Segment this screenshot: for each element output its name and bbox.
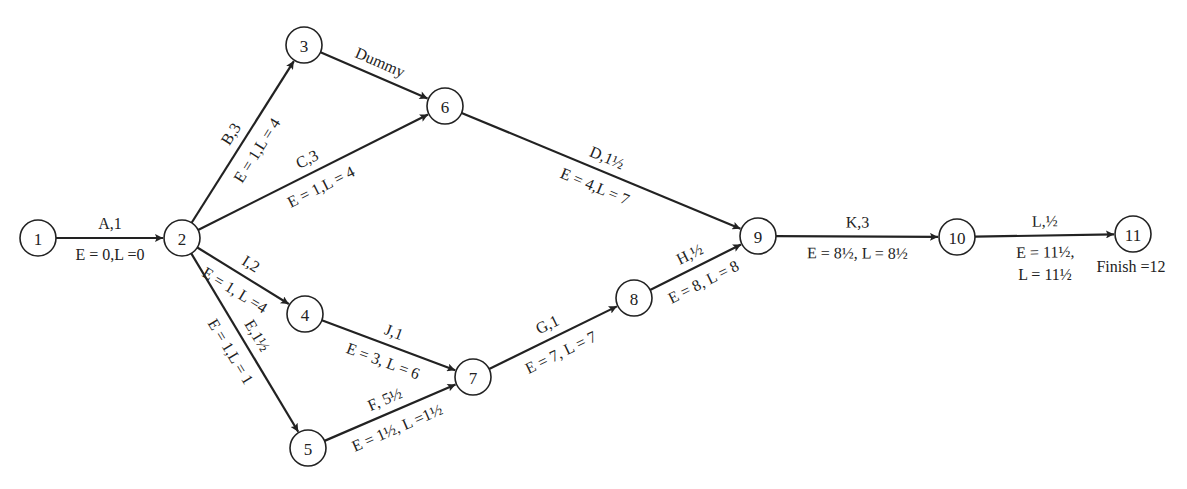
node-number: 11	[1125, 226, 1141, 245]
edge-2-3	[192, 61, 294, 223]
node-number: 1	[34, 230, 43, 249]
time-label-2: L = 11½	[1018, 266, 1072, 283]
activity-label: I,2	[239, 252, 263, 276]
time-label: E = 11½,	[1016, 243, 1074, 261]
node-number: 5	[304, 440, 313, 459]
time-label: E = 3, L = 6	[344, 339, 422, 382]
node-number: 3	[300, 37, 309, 56]
activity-label: B,3	[218, 120, 244, 148]
edge-9-10	[776, 236, 938, 237]
activity-label: Dummy	[352, 44, 407, 81]
activity-label: G,1	[533, 312, 562, 338]
network-diagram: 1234567891011 A,1E = 0,L =0B,3E = 1,L = …	[0, 0, 1187, 489]
activity-label: A,1	[98, 215, 122, 232]
finish-label: Finish =12	[1096, 258, 1165, 275]
node-number: 8	[630, 290, 639, 309]
node-1: 1	[20, 220, 56, 256]
node-number: 6	[441, 98, 450, 117]
node-11: 11	[1115, 216, 1151, 252]
node-7: 7	[455, 359, 491, 395]
node-5: 5	[290, 430, 326, 466]
node-6: 6	[427, 88, 463, 124]
node-number: 2	[178, 230, 187, 249]
time-label: E = 4,L = 7	[558, 164, 632, 208]
node-3: 3	[286, 27, 322, 63]
activity-label: K,3	[846, 213, 870, 230]
node-number: 9	[754, 228, 763, 247]
node-9: 9	[740, 218, 776, 254]
activity-label: J,1	[383, 321, 406, 343]
time-label: E = 0,L =0	[76, 246, 145, 263]
node-number: 7	[469, 369, 478, 388]
time-label: E = 8½, L = 8½	[807, 244, 908, 262]
activity-label: L,½	[1032, 212, 1058, 229]
activity-label: C,3	[293, 146, 321, 171]
edge-10-11	[975, 234, 1114, 236]
node-number: 10	[949, 229, 966, 248]
time-label: E = 1,L = 4	[284, 163, 357, 211]
activity-label: E,1½	[241, 317, 273, 355]
node-number: 4	[301, 306, 310, 325]
edge-6-9	[462, 113, 741, 229]
node-2: 2	[164, 220, 200, 256]
node-8: 8	[616, 280, 652, 316]
node-10: 10	[939, 219, 975, 255]
node-4: 4	[287, 296, 323, 332]
